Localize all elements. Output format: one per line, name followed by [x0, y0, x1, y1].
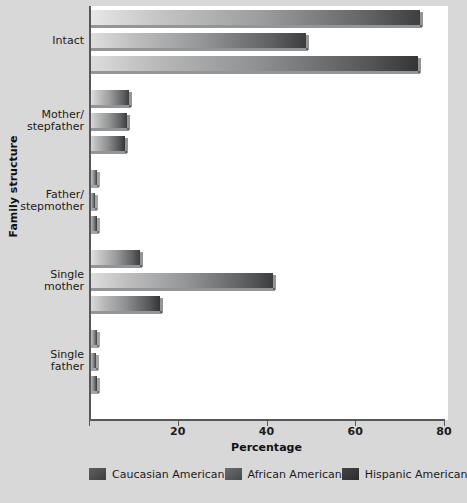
y-axis-category-label: Singlefather [10, 348, 84, 373]
legend-label: African American [248, 468, 342, 481]
chart-legend: Caucasian AmericanAfrican AmericanHispan… [89, 463, 449, 485]
x-axis-tick-label: 20 [170, 425, 185, 438]
legend-item-1: African American [225, 468, 342, 481]
legend-label: Hispanic American [365, 468, 467, 481]
legend-swatch-caucasian [89, 468, 106, 480]
y-axis-category-label-line: stepfather [10, 121, 84, 134]
legend-label: Caucasian American [112, 468, 225, 481]
y-axis-category-label-line: Single [10, 348, 84, 361]
y-axis-category-label: Father/stepmother [10, 188, 84, 213]
y-axis-category-label: Mother/stepfather [10, 108, 84, 133]
x-axis-tick-label: 80 [436, 425, 451, 438]
y-axis-category-label-line: Mother/ [10, 108, 84, 121]
y-axis-category-label-line: stepmother [10, 201, 84, 214]
legend-item-2: Hispanic American [342, 468, 467, 481]
x-axis-title: Percentage [89, 441, 444, 454]
y-axis-category-label: Singlemother [10, 268, 84, 293]
legend-swatch-african [225, 468, 242, 480]
y-axis-category-label-line: Father/ [10, 188, 84, 201]
y-axis-category-label: Intact [10, 34, 84, 47]
y-axis-category-labels: Family structure IntactMother/stepfather… [0, 0, 84, 420]
legend-item-0: Caucasian American [89, 468, 225, 481]
x-axis-tick-label: 60 [348, 425, 363, 438]
y-axis-category-label-line: Intact [10, 34, 84, 47]
y-axis-category-label-line: Single [10, 268, 84, 281]
y-axis-category-label-line: father [10, 361, 84, 374]
y-axis-title: Family structure [7, 127, 20, 247]
x-axis-tick [89, 419, 90, 426]
y-axis-category-label-line: mother [10, 281, 84, 294]
legend-swatch-hispanic [342, 468, 359, 480]
x-axis-tick-label: 40 [259, 425, 274, 438]
